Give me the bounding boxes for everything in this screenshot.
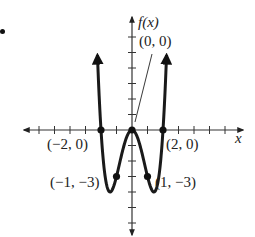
y-axis — [128, 17, 136, 235]
point-marker — [113, 173, 120, 180]
point-marker — [159, 126, 166, 133]
leader-line — [135, 54, 152, 122]
y-axis-label: f(x) — [138, 15, 159, 30]
point-label-1-neg3: (1, −3) — [155, 175, 196, 190]
point-label-origin: (0, 0) — [139, 34, 172, 49]
point-label-neg2-0: (−2, 0) — [47, 137, 88, 152]
point-label-neg1-neg3: (−1, −3) — [50, 175, 99, 190]
point-marker — [144, 173, 151, 180]
x-axis-label: x — [235, 131, 242, 146]
point-marker — [128, 126, 135, 133]
point-label-2-0: (2, 0) — [166, 137, 199, 152]
graph-canvas — [0, 0, 255, 237]
point-marker — [97, 126, 104, 133]
